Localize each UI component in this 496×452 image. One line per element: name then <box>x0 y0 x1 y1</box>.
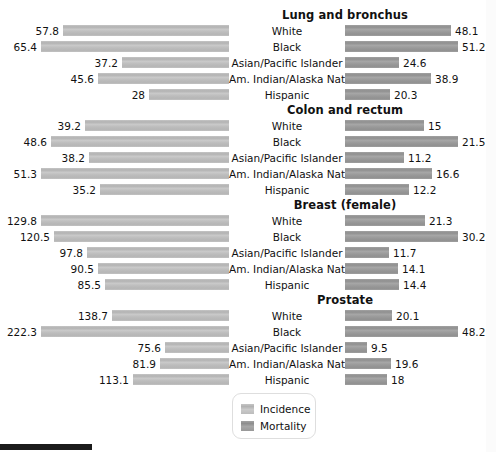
incidence-half: 38.2 <box>0 150 229 166</box>
mortality-half: 21.5 <box>345 134 496 150</box>
chart-row: 97.8Asian/Pacific Islander11.7 <box>0 245 496 261</box>
mortality-swatch-icon <box>241 421 254 431</box>
incidence-value-label: 35.2 <box>73 182 96 198</box>
incidence-half: 81.9 <box>0 356 229 372</box>
mortality-bar <box>345 326 458 337</box>
category-label: Asian/Pacific Islander <box>229 340 345 356</box>
incidence-bar <box>41 326 229 337</box>
legend-item-incidence: Incidence <box>241 400 310 416</box>
chart-row: 85.5Hispanic14.4 <box>0 277 496 293</box>
incidence-bar <box>149 89 229 100</box>
mortality-bar <box>345 263 398 274</box>
mortality-half: 18 <box>345 372 496 388</box>
category-label: Am. Indian/Alaska Native <box>229 71 345 87</box>
panel-title: Colon and rectum <box>230 103 460 118</box>
incidence-bar <box>41 41 229 52</box>
mortality-bar <box>345 120 424 131</box>
mortality-value-label: 48.1 <box>455 23 478 39</box>
incidence-bar <box>98 263 229 274</box>
incidence-value-label: 37.2 <box>95 55 118 71</box>
mortality-value-label: 24.6 <box>403 55 426 71</box>
panel-title: Prostate <box>230 293 460 308</box>
incidence-value-label: 45.6 <box>71 71 94 87</box>
incidence-half: 65.4 <box>0 39 229 55</box>
scan-artifact-tint <box>486 0 496 452</box>
mortality-half: 51.2 <box>345 39 496 55</box>
incidence-bar <box>122 57 229 68</box>
chart-row: 38.2Asian/Pacific Islander11.2 <box>0 150 496 166</box>
mortality-bar <box>345 215 425 226</box>
mortality-value-label: 48.2 <box>462 324 485 340</box>
mortality-value-label: 12.2 <box>413 182 436 198</box>
incidence-half: 48.6 <box>0 134 229 150</box>
incidence-bar <box>41 215 229 226</box>
incidence-bar <box>85 120 229 131</box>
mortality-value-label: 20.3 <box>394 87 417 103</box>
mortality-bar <box>345 136 458 147</box>
incidence-bar <box>165 342 229 353</box>
chart-row: 138.7White20.1 <box>0 308 496 324</box>
incidence-half: 85.5 <box>0 277 229 293</box>
mortality-bar <box>345 89 390 100</box>
incidence-half: 97.8 <box>0 245 229 261</box>
category-label: White <box>229 213 345 229</box>
panel-3: Prostate138.7White20.1222.3Black48.275.6… <box>0 293 496 388</box>
mortality-half: 20.3 <box>345 87 496 103</box>
category-label: White <box>229 118 345 134</box>
chart-row: 57.8White48.1 <box>0 23 496 39</box>
category-label: Black <box>229 39 345 55</box>
chart-row: 28Hispanic20.3 <box>0 87 496 103</box>
incidence-bar <box>87 247 229 258</box>
incidence-half: 90.5 <box>0 261 229 277</box>
legend-label-mortality: Mortality <box>260 420 307 432</box>
panel-rows: 39.2White1548.6Black21.538.2Asian/Pacifi… <box>0 118 496 198</box>
incidence-value-label: 28 <box>132 87 145 103</box>
mortality-value-label: 51.2 <box>462 39 485 55</box>
mortality-half: 30.2 <box>345 229 496 245</box>
incidence-value-label: 38.2 <box>62 150 85 166</box>
mortality-half: 14.4 <box>345 277 496 293</box>
mortality-value-label: 21.3 <box>429 213 452 229</box>
incidence-value-label: 97.8 <box>60 245 83 261</box>
chart-row: 81.9Am. Indian/Alaska Native19.6 <box>0 356 496 372</box>
category-label: Am. Indian/Alaska Native <box>229 261 345 277</box>
incidence-bar <box>63 25 229 36</box>
chart-row: 113.1Hispanic18 <box>0 372 496 388</box>
mortality-bar <box>345 152 404 163</box>
incidence-bar <box>105 279 229 290</box>
chart-row: 120.5Black30.2 <box>0 229 496 245</box>
mortality-bar <box>345 342 367 353</box>
cancer-rates-chart: Lung and bronchus57.8White48.165.4Black5… <box>0 0 496 452</box>
incidence-bar <box>89 152 229 163</box>
category-label: Asian/Pacific Islander <box>229 245 345 261</box>
chart-row: 37.2Asian/Pacific Islander24.6 <box>0 55 496 71</box>
incidence-value-label: 81.9 <box>133 356 156 372</box>
incidence-half: 35.2 <box>0 182 229 198</box>
mortality-value-label: 14.4 <box>403 277 426 293</box>
mortality-half: 14.1 <box>345 261 496 277</box>
mortality-value-label: 18 <box>391 372 404 388</box>
panel-1: Colon and rectum39.2White1548.6Black21.5… <box>0 103 496 198</box>
mortality-bar <box>345 168 432 179</box>
incidence-bar <box>133 374 229 385</box>
panel-title: Lung and bronchus <box>230 8 460 23</box>
mortality-value-label: 11.2 <box>408 150 431 166</box>
incidence-value-label: 85.5 <box>78 277 101 293</box>
panel-rows: 129.8White21.3120.5Black30.297.8Asian/Pa… <box>0 213 496 293</box>
incidence-value-label: 222.3 <box>7 324 37 340</box>
incidence-bar <box>100 184 229 195</box>
incidence-bar <box>54 231 229 242</box>
chart-row: 39.2White15 <box>0 118 496 134</box>
chart-row: 90.5Am. Indian/Alaska Native14.1 <box>0 261 496 277</box>
scan-artifact-strip <box>0 444 92 450</box>
panel-title: Breast (female) <box>230 198 460 213</box>
category-label: Hispanic <box>229 182 345 198</box>
incidence-bar <box>98 73 229 84</box>
mortality-half: 48.1 <box>345 23 496 39</box>
incidence-bar <box>51 136 229 147</box>
incidence-bar <box>112 310 229 321</box>
mortality-bar <box>345 57 399 68</box>
category-label: Am. Indian/Alaska Native <box>229 166 345 182</box>
incidence-half: 75.6 <box>0 340 229 356</box>
mortality-bar <box>345 310 392 321</box>
